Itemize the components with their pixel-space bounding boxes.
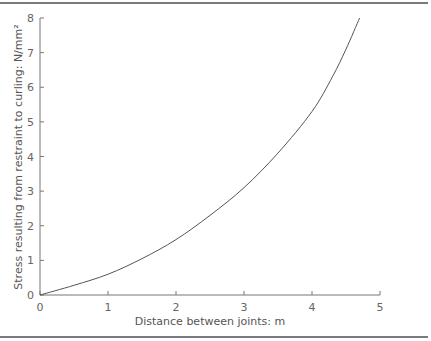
x-tick-label: 2 bbox=[173, 301, 180, 314]
y-tick-label: 8 bbox=[27, 12, 34, 25]
x-axis-label: Distance between joints: m bbox=[135, 315, 285, 328]
x-tick-label: 5 bbox=[377, 301, 384, 314]
stress-curve bbox=[40, 18, 360, 295]
line-chart: 012345678012345 Distance between joints:… bbox=[0, 0, 431, 341]
x-tick-label: 4 bbox=[309, 301, 316, 314]
y-tick-label: 6 bbox=[27, 81, 34, 94]
y-axis-label: Stress resulting from restraint to curli… bbox=[12, 24, 25, 289]
y-tick-label: 1 bbox=[27, 254, 34, 267]
curve-series bbox=[40, 18, 360, 295]
x-tick-label: 1 bbox=[105, 301, 112, 314]
axes: 012345678012345 bbox=[27, 12, 384, 314]
y-tick-label: 3 bbox=[27, 185, 34, 198]
y-tick-label: 4 bbox=[27, 151, 34, 164]
x-tick-label: 3 bbox=[241, 301, 248, 314]
y-tick-label: 7 bbox=[27, 47, 34, 60]
x-tick-label: 0 bbox=[37, 301, 44, 314]
y-tick-label: 5 bbox=[27, 116, 34, 129]
y-tick-label: 0 bbox=[27, 289, 34, 302]
y-tick-label: 2 bbox=[27, 220, 34, 233]
